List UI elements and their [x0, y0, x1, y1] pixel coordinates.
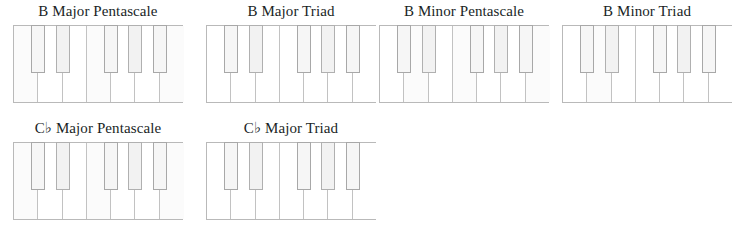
black-key-1[interactable] [605, 25, 619, 73]
black-key-3[interactable] [128, 25, 142, 73]
diagram-b-minor-pentascale: B Minor Pentascale [379, 2, 549, 103]
black-key-1[interactable] [56, 142, 70, 190]
black-key-0[interactable] [397, 25, 411, 73]
black-key-0[interactable] [580, 25, 594, 73]
black-key-3[interactable] [128, 142, 142, 190]
diagram-title: C♭ Major Pentascale [13, 119, 183, 138]
black-key-1[interactable] [249, 25, 263, 73]
black-key-3[interactable] [494, 25, 508, 73]
diagram-title: B Major Triad [206, 2, 376, 21]
black-key-1[interactable] [422, 25, 436, 73]
keyboard [562, 25, 732, 103]
black-key-4[interactable] [702, 25, 716, 73]
diagram-b-major-pentascale: B Major Pentascale [13, 2, 183, 103]
black-key-1[interactable] [56, 25, 70, 73]
black-key-0[interactable] [224, 25, 238, 73]
black-key-2[interactable] [653, 25, 667, 73]
keyboard [13, 25, 183, 103]
black-key-4[interactable] [153, 142, 167, 190]
black-key-3[interactable] [321, 142, 335, 190]
diagram-b-major-triad: B Major Triad [206, 2, 376, 103]
black-key-2[interactable] [104, 25, 118, 73]
keyboard [206, 142, 376, 220]
black-key-4[interactable] [346, 142, 360, 190]
keyboard [13, 142, 183, 220]
keyboard [379, 25, 549, 103]
black-key-2[interactable] [470, 25, 484, 73]
diagram-cb-major-pentascale: C♭ Major Pentascale [13, 119, 183, 220]
diagram-title: B Minor Triad [562, 2, 732, 21]
black-key-3[interactable] [321, 25, 335, 73]
black-key-2[interactable] [297, 142, 311, 190]
diagram-b-minor-triad: B Minor Triad [562, 2, 732, 103]
black-key-0[interactable] [31, 25, 45, 73]
black-key-0[interactable] [31, 142, 45, 190]
black-key-4[interactable] [346, 25, 360, 73]
black-key-2[interactable] [104, 142, 118, 190]
black-key-0[interactable] [224, 142, 238, 190]
keyboard [206, 25, 376, 103]
diagram-title: B Major Pentascale [13, 2, 183, 21]
black-key-3[interactable] [677, 25, 691, 73]
black-key-4[interactable] [519, 25, 533, 73]
black-key-4[interactable] [153, 25, 167, 73]
black-key-1[interactable] [249, 142, 263, 190]
diagram-title: B Minor Pentascale [379, 2, 549, 21]
diagram-title: C♭ Major Triad [206, 119, 376, 138]
keyboard-diagram-sheet: B Major PentascaleB Major TriadB Minor P… [0, 0, 736, 237]
black-key-2[interactable] [297, 25, 311, 73]
diagram-cb-major-triad: C♭ Major Triad [206, 119, 376, 220]
